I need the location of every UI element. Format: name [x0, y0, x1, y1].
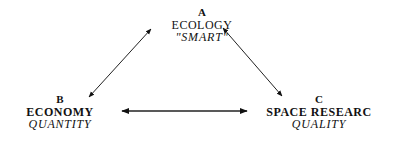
node-b-letter: B	[10, 94, 110, 106]
node-economy: B ECONOMY QUANTITY	[10, 94, 110, 131]
node-c-subtitle: QUALITY	[254, 118, 384, 131]
node-a-letter: A	[142, 7, 262, 19]
node-a-subtitle: "SMART"	[142, 31, 262, 44]
node-b-subtitle: QUANTITY	[10, 118, 110, 131]
node-c-letter: C	[254, 94, 384, 106]
node-space-research: C SPACE RESEARC QUALITY	[254, 94, 384, 131]
node-ecology: A ECOLOGY "SMART"	[142, 7, 262, 44]
